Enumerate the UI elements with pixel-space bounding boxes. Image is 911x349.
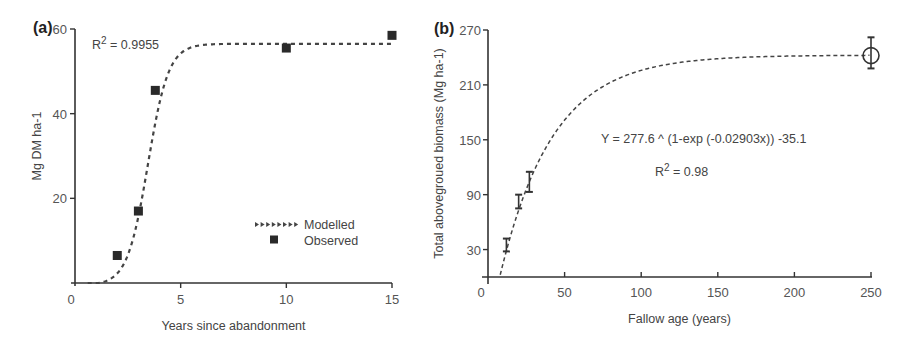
error-bar [526,172,533,192]
observed-point [282,44,291,53]
y-tick-label: 210 [459,78,481,93]
x-tick-label: 10 [279,292,293,307]
y-tick-label: 40 [53,107,67,122]
x-tick-label: 100 [630,285,652,300]
panel-a: (a)204060051015Years since abandonmentMg… [30,19,399,333]
y-tick-label: 150 [459,133,481,148]
equation-annotation: Y = 277.6 ^ (1-exp (-0.02903x)) -35.1 [601,132,806,146]
y-tick-label: 60 [53,22,67,37]
x-tick-label: 15 [385,292,399,307]
x-tick-label: 150 [707,285,729,300]
x-tick-label: 250 [860,285,882,300]
x-tick-label: 5 [177,292,184,307]
y-tick-label: 270 [459,23,481,38]
legend-observed: Observed [304,234,358,248]
x-axis-label: Years since abandonment [161,319,306,333]
y-axis-label: Mg DM ha-1 [30,112,44,181]
panel-label-b: (b) [434,20,454,37]
y-axis-label: Total abovegroued biomass (Mg ha-1) [432,48,446,259]
observed-point [113,251,122,260]
x-axis-label: Fallow age (years) [628,312,731,326]
y-tick-label: 30 [467,243,481,258]
x-tick-label: 0 [67,292,74,307]
error-bar [863,37,879,68]
x-tick-label: 200 [784,285,806,300]
observed-point [151,86,160,95]
observed-point [388,31,397,40]
x-tick-label: 0 [477,285,484,300]
figure: (a)204060051015Years since abandonmentMg… [0,0,911,349]
panel-label-a: (a) [33,19,53,36]
error-bar [515,195,522,209]
y-tick-label: 20 [53,191,67,206]
observed-point [134,207,143,216]
r2-annotation: R2 = 0.98 [655,162,708,179]
x-tick-label: 50 [557,285,571,300]
y-tick-label: 90 [467,188,481,203]
panel-b: (b)3090150210270050100150200250Fallow ag… [432,20,882,326]
r2-annotation: R2 = 0.9955 [92,35,159,52]
legend-square-icon [270,236,278,244]
legend-modelled: Modelled [304,218,355,232]
legend: ModelledObserved [255,218,358,248]
